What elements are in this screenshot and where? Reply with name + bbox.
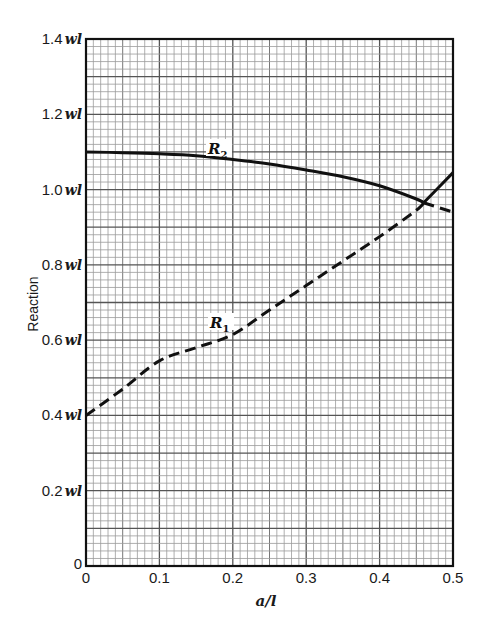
x-tick-label: 0 bbox=[82, 569, 90, 586]
y-tick-label: 1.2wl bbox=[42, 105, 82, 122]
grid bbox=[86, 39, 453, 566]
x-tick-label: 0.4 bbox=[369, 569, 390, 586]
r1-label: R1 bbox=[208, 313, 234, 334]
y-tick-label: 0.4wl bbox=[42, 406, 82, 423]
x-tick-label: 0.3 bbox=[296, 569, 317, 586]
r2-label: R2 bbox=[206, 139, 232, 160]
x-axis-title: a/l bbox=[256, 592, 277, 610]
y-tick-label: 0 bbox=[74, 555, 82, 572]
y-tick-label: 1.0wl bbox=[42, 181, 82, 198]
y-tick-labels: 00.2wl0.4wl0.6wl0.8wl1.0wl1.2wl1.4wl bbox=[42, 30, 82, 572]
y-axis-title: Reaction bbox=[25, 276, 41, 331]
x-tick-label: 0.5 bbox=[443, 569, 464, 586]
y-tick-label: 0.2wl bbox=[42, 482, 82, 499]
x-tick-labels: 00.10.20.30.40.5 bbox=[82, 569, 464, 586]
reaction-chart: 00.2wl0.4wl0.6wl0.8wl1.0wl1.2wl1.4wl 00.… bbox=[0, 0, 486, 630]
y-tick-label: 1.4wl bbox=[42, 30, 82, 47]
x-tick-label: 0.2 bbox=[222, 569, 243, 586]
y-tick-label: 0.8wl bbox=[42, 256, 82, 273]
y-tick-label: 0.6wl bbox=[42, 331, 82, 348]
x-tick-label: 0.1 bbox=[149, 569, 170, 586]
